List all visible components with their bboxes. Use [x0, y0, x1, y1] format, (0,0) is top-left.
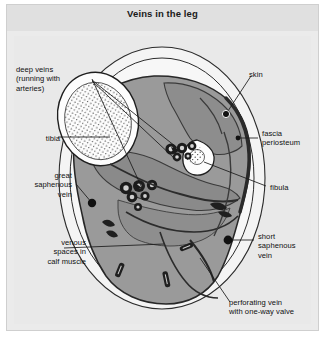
label-fascia-periosteum: fascia periosteum — [262, 129, 322, 148]
marker-dot-skin — [222, 110, 229, 117]
marker-dot-fascia — [236, 136, 241, 141]
label-great-saphenous-vein: great saphenous vein — [0, 171, 72, 199]
label-skin: skin — [249, 70, 309, 79]
label-short-saphenous-vein: short saphenous vein — [258, 232, 320, 260]
label-deep-veins: deep veins (running with arteries) — [16, 65, 102, 93]
figure-title: Veins in the leg — [0, 8, 325, 19]
label-fibula: fibula — [270, 183, 320, 192]
marker-dot-great-saphenous — [88, 199, 96, 207]
marker-dot-short-saphenous — [224, 236, 233, 245]
label-tibia: tibia — [0, 134, 60, 143]
label-venous-spaces: venous spaces in calf muscle — [0, 238, 86, 266]
figure-page: Veins in the leg — [0, 0, 325, 344]
label-perforating-vein: perforating vein with one-way valve — [229, 298, 325, 317]
